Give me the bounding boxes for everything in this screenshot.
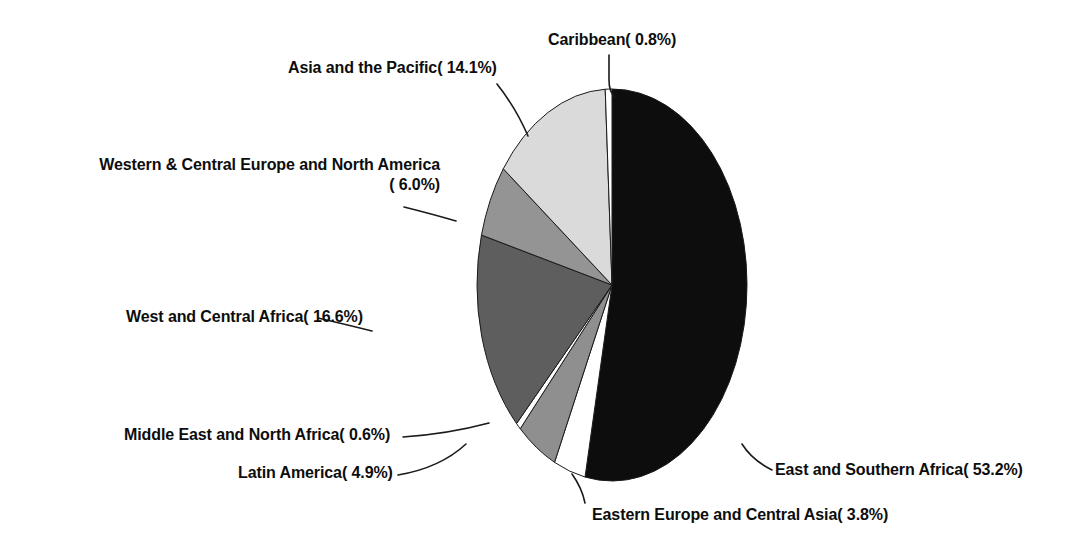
leader-line-mena [403,423,489,437]
slice-label-western-central-europe-and-north-america: Western & Central Europe and North Ameri… [30,155,440,196]
slice-label-west-and-central-africa: West and Central Africa( 16.6%) [126,307,363,327]
leader-line-wce-na [404,207,456,221]
pie-slices [477,89,747,481]
slice-label-east-and-southern-africa: East and Southern Africa( 53.2%) [775,460,1023,480]
slice-label-caribbean: Caribbean( 0.8%) [548,30,676,50]
leader-line-latin-america [398,444,466,475]
slice-label-wce-na-line2: ( 6.0%) [389,176,440,193]
slice-label-eastern-europe-and-central-asia: Eastern Europe and Central Asia( 3.8%) [592,505,888,525]
leader-line-eee-ca [572,474,585,503]
slice-label-middle-east-and-north-africa: Middle East and North Africa( 0.6%) [124,425,390,445]
slice-label-latin-america: Latin America( 4.9%) [238,463,393,483]
pie-chart-page: Caribbean( 0.8%) Asia and the Pacific( 1… [0,0,1087,550]
leader-line-asia-pacific [497,84,528,136]
slice-label-asia-and-the-pacific: Asia and the Pacific( 14.1%) [288,58,497,78]
leader-line-esa [742,444,772,470]
slice-label-wce-na-line1: Western & Central Europe and North Ameri… [99,156,440,173]
